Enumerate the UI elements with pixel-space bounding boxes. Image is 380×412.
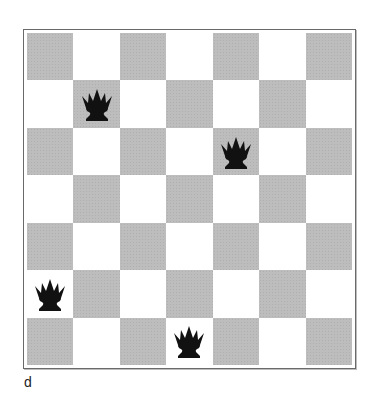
board-square: [166, 33, 212, 80]
board-square: [120, 223, 166, 270]
board-square: [73, 318, 119, 365]
board-square: [73, 80, 119, 127]
queen-icon: [216, 132, 256, 172]
board-square: [306, 128, 352, 175]
board-square: [73, 128, 119, 175]
board-square: [27, 80, 73, 127]
board-square: [166, 175, 212, 222]
board-square: [259, 175, 305, 222]
board-square: [166, 223, 212, 270]
board-square: [259, 270, 305, 317]
board-square: [120, 318, 166, 365]
chess-board: [23, 29, 356, 369]
board-square: [213, 80, 259, 127]
board-square: [259, 33, 305, 80]
board-square: [306, 33, 352, 80]
board-square: [213, 270, 259, 317]
board-square: [166, 80, 212, 127]
board-square: [73, 270, 119, 317]
board-square: [120, 128, 166, 175]
board-square: [27, 223, 73, 270]
board-square: [306, 175, 352, 222]
queen-icon: [30, 274, 70, 314]
board-square: [120, 270, 166, 317]
board-square: [306, 270, 352, 317]
board-square: [27, 128, 73, 175]
board-square: [120, 33, 166, 80]
board-square: [166, 128, 212, 175]
board-square: [27, 175, 73, 222]
board-square: [73, 175, 119, 222]
board-square: [306, 80, 352, 127]
board-square: [213, 175, 259, 222]
board-square: [120, 80, 166, 127]
board-square: [259, 128, 305, 175]
board-square: [213, 128, 259, 175]
queen-icon: [77, 84, 117, 124]
board-square: [120, 175, 166, 222]
board-square: [213, 33, 259, 80]
board-square: [259, 80, 305, 127]
figure-caption: d: [24, 374, 32, 390]
board-square: [27, 270, 73, 317]
board-square: [259, 223, 305, 270]
board-square: [166, 318, 212, 365]
board-square: [27, 33, 73, 80]
board-square: [306, 318, 352, 365]
board-grid: [27, 33, 352, 365]
board-square: [73, 223, 119, 270]
board-square: [73, 33, 119, 80]
board-square: [306, 223, 352, 270]
board-square: [213, 223, 259, 270]
board-square: [213, 318, 259, 365]
queen-icon: [169, 321, 209, 361]
board-square: [166, 270, 212, 317]
board-square: [259, 318, 305, 365]
board-square: [27, 318, 73, 365]
